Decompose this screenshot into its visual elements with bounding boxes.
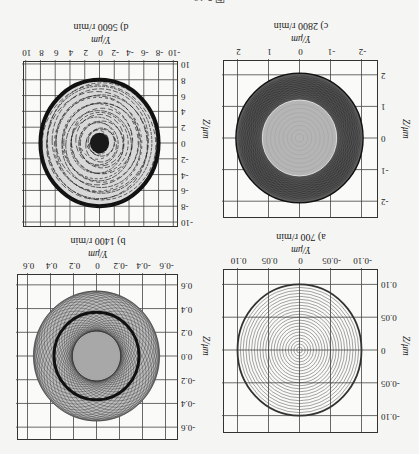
y-tick-label: -4 — [181, 171, 200, 181]
x-axis-label: Y/μm — [88, 249, 108, 259]
y-tick-label: 4 — [181, 107, 200, 117]
x-tick-label: -6 — [141, 48, 149, 58]
orbit-plot-c — [222, 59, 377, 217]
orbit-trajectory — [33, 291, 160, 421]
y-tick-label: -8 — [181, 202, 200, 212]
x-tick-label: -1 — [328, 47, 336, 57]
y-axis-label: Z/μm — [201, 119, 211, 139]
y-tick-label: 0.0 — [181, 352, 200, 362]
y-tick-label: 0.2 — [181, 328, 200, 338]
x-tick-label: 8 — [39, 48, 44, 58]
x-tick-label: 0.2 — [69, 261, 80, 271]
y-tick-label: -6 — [181, 186, 200, 196]
y-tick-label: 0 — [181, 139, 200, 149]
orbit-trajectory — [40, 80, 158, 207]
y-tick-label: -0.05 — [381, 379, 400, 389]
y-tick-label: -1 — [381, 166, 400, 176]
panel-caption: d) 5600 r/min — [74, 22, 129, 33]
x-tick-label: 0.6 — [23, 261, 34, 271]
x-tick-label: -0.6 — [159, 261, 173, 271]
x-tick-label: -2 — [359, 47, 367, 57]
y-tick-label: -2 — [181, 155, 200, 165]
x-tick-label: 0 — [298, 256, 303, 266]
y-tick-label: -0.6 — [181, 423, 200, 433]
y-tick-label: 6 — [181, 92, 200, 102]
y-tick-label: 0 — [381, 134, 400, 144]
x-tick-label: 0.10 — [231, 256, 247, 266]
y-tick-label: -0.4 — [181, 399, 200, 409]
x-tick-label: 2 — [236, 47, 241, 57]
y-tick-label: 1 — [381, 102, 400, 112]
x-tick-label: -10 — [168, 48, 180, 58]
panel-caption: a) 700 r/min — [276, 232, 325, 243]
y-axis-label: Z/μm — [401, 119, 411, 139]
x-tick-label: -0.2 — [113, 261, 127, 271]
y-tick-label: 2 — [181, 123, 200, 133]
orbit-plot-d — [22, 60, 177, 226]
x-axis-label: Y/μm — [291, 34, 311, 44]
plot-frame — [223, 269, 378, 433]
x-tick-label: 0 — [98, 48, 103, 58]
y-tick-label: 0.6 — [181, 281, 200, 291]
x-tick-label: 0.05 — [262, 256, 278, 266]
panel-caption: c) 2800 r/min — [274, 21, 328, 32]
x-axis-label: Y/μm — [291, 245, 311, 255]
figure-caption: 图 5-16 — [194, 0, 225, 6]
orbit-trajectory — [236, 73, 363, 203]
x-tick-label: 1 — [267, 47, 272, 57]
y-tick-label: 0.05 — [381, 313, 400, 323]
figure-canvas: Z/μm -0.10-0.0500.050.10 -0.10-0.0500.05… — [0, 0, 419, 454]
panel-caption: b) 1400 r/min — [71, 236, 126, 247]
y-tick-label: 2 — [381, 71, 400, 81]
y-tick-label: -0.10 — [381, 412, 400, 422]
x-tick-label: 0 — [298, 47, 303, 57]
y-tick-label: 0.10 — [381, 280, 400, 290]
y-tick-label: 8 — [181, 76, 200, 86]
y-axis-label: Z/μm — [401, 336, 411, 356]
plot-frame — [17, 274, 178, 440]
x-tick-label: 0.4 — [46, 261, 57, 271]
plot-frame — [223, 60, 378, 218]
y-tick-label: -2 — [381, 197, 400, 207]
x-tick-label: -8 — [156, 48, 164, 58]
x-tick-label: -0.05 — [322, 256, 341, 266]
y-tick-label: 0 — [381, 346, 400, 356]
x-tick-label: -2 — [112, 48, 120, 58]
x-tick-label: 2 — [84, 48, 89, 58]
plot-frame — [23, 61, 178, 227]
orbit-plot-a — [222, 268, 377, 432]
orbit-plot-b — [16, 273, 177, 439]
x-tick-label: 0 — [95, 261, 100, 271]
y-tick-label: 0.4 — [181, 305, 200, 315]
y-tick-label: -10 — [181, 218, 200, 228]
y-tick-label: -0.2 — [181, 376, 200, 386]
x-tick-label: 6 — [54, 48, 59, 58]
x-tick-label: -0.10 — [353, 256, 372, 266]
y-axis-label: Z/μm — [201, 336, 211, 356]
x-tick-label: -0.4 — [136, 261, 150, 271]
x-tick-label: -4 — [126, 48, 134, 58]
x-tick-label: 10 — [22, 48, 31, 58]
x-tick-label: 4 — [69, 48, 74, 58]
x-axis-label: Y/μm — [91, 35, 111, 45]
y-tick-label: 10 — [181, 60, 200, 70]
